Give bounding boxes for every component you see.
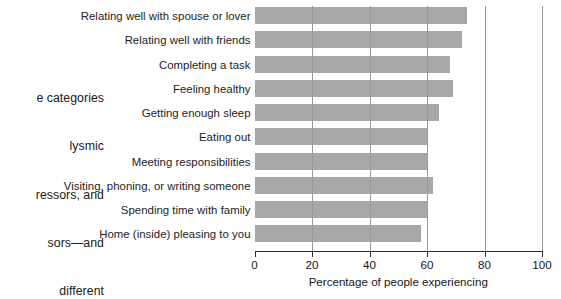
- bar: [255, 31, 462, 48]
- x-tick: [255, 252, 256, 257]
- x-tick-label: 100: [522, 259, 561, 271]
- gridline: [542, 6, 543, 251]
- x-axis-title: Percentage of people experiencing: [248, 275, 548, 288]
- gridline: [427, 6, 428, 251]
- category-label: Feeling healthy: [0, 83, 251, 95]
- bar: [255, 177, 433, 194]
- category-label: Spending time with family: [0, 204, 251, 216]
- x-tick: [312, 252, 313, 257]
- x-tick-label: 40: [350, 259, 390, 271]
- gridline: [370, 6, 371, 251]
- x-tick-label: 0: [235, 259, 275, 271]
- bar: [255, 225, 422, 242]
- bar: [255, 201, 428, 218]
- bar: [255, 128, 428, 145]
- x-tick: [427, 252, 428, 257]
- category-label: Getting enough sleep: [0, 107, 251, 119]
- x-axis-line: [255, 251, 544, 252]
- category-label: Home (inside) pleasing to you: [0, 228, 251, 240]
- gridline: [312, 6, 313, 251]
- bar: [255, 7, 468, 24]
- bar: [255, 56, 451, 73]
- gridline: [485, 6, 486, 251]
- category-label: Meeting responsibilities: [0, 156, 251, 168]
- x-tick: [370, 252, 371, 257]
- x-tick: [485, 252, 486, 257]
- category-label: Completing a task: [0, 59, 251, 71]
- bar: [255, 104, 439, 121]
- bar: [255, 80, 453, 97]
- x-tick-label: 60: [407, 259, 447, 271]
- category-label: Visiting, phoning, or writing someone: [0, 180, 251, 192]
- category-label: Relating well with spouse or lover: [0, 10, 251, 22]
- x-tick-label: 20: [292, 259, 332, 271]
- category-label: Relating well with friends: [0, 34, 251, 46]
- bar: [255, 153, 428, 170]
- category-label: Eating out: [0, 131, 251, 143]
- x-tick-label: 80: [465, 259, 505, 271]
- x-tick: [542, 252, 543, 257]
